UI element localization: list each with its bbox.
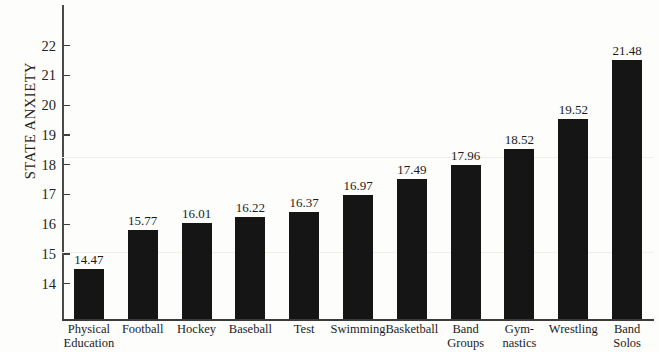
category-label: Band Solos [613,323,641,350]
y-tick-mark [64,45,70,46]
y-tick-mark [64,75,70,76]
bar-value-label: 16.97 [343,178,372,194]
bar [504,149,534,319]
bar-value-label: 17.96 [451,148,480,164]
y-tick-label: 15 [42,245,57,262]
y-tick-label: 22 [42,37,57,54]
bar [128,230,158,319]
bar [182,223,212,319]
y-tick-label: 14 [42,275,57,292]
plot-area: 141516171819202122 14.4715.7716.0116.221… [62,5,654,320]
y-tick-mark [64,105,70,106]
y-tick-mark [64,283,70,284]
category-label: Test [294,323,315,337]
bar-value-label: 14.47 [74,252,103,268]
category-label: Wrestling [549,323,598,337]
category-label: Swimming [331,323,386,337]
y-tick-mark [64,224,70,225]
category-label: Hockey [177,323,216,337]
bar-chart-figure: STATE ANXIETY 141516171819202122 14.4715… [0,0,659,352]
bar-value-label: 16.37 [290,195,319,211]
y-tick-mark [64,194,70,195]
y-tick-label: 21 [42,67,57,84]
x-axis-line [62,319,654,321]
bar [451,165,481,319]
bar [558,119,588,319]
category-label: Basketball [385,323,438,337]
bar-value-label: 15.77 [128,213,157,229]
bar [612,60,642,319]
y-axis-title: STATE ANXIETY [22,11,39,231]
y-tick-label: 20 [42,97,57,114]
category-label: Gym- nastics [502,323,536,350]
y-tick-mark [64,134,70,135]
y-tick-label: 19 [42,126,57,143]
y-tick-label: 17 [42,186,57,203]
bar [235,217,265,319]
bar-value-label: 17.49 [397,162,426,178]
y-tick-mark [64,253,70,254]
bar-value-label: 18.52 [505,132,534,148]
bar [343,195,373,319]
bar [74,269,104,319]
bar-value-label: 16.22 [236,200,265,216]
y-tick-label: 18 [42,156,57,173]
y-tick-label: 16 [42,216,57,233]
bar [289,212,319,319]
bar-value-label: 16.01 [182,206,211,222]
y-tick-mark [64,164,70,165]
category-label: Football [122,323,164,337]
bar-value-label: 19.52 [559,102,588,118]
category-label: Physical Education [64,323,115,350]
category-label: Baseball [229,323,272,337]
bar [397,179,427,319]
bar-value-label: 21.48 [612,43,641,59]
y-axis-line [62,5,64,320]
category-label: Band Groups [447,323,484,350]
